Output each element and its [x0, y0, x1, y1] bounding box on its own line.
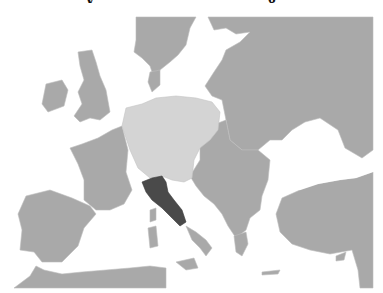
central-italy-region: [142, 176, 186, 226]
europe-map: [0, 0, 383, 293]
